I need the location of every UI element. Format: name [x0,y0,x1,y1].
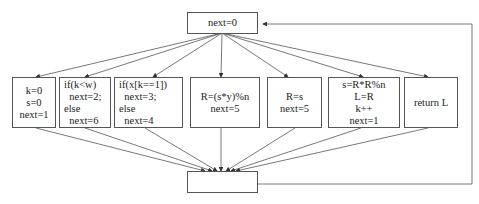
edge-top-case1 [36,33,222,77]
case-line: if(k<w) [64,79,110,91]
case-line: k=0 [26,85,42,97]
case-line: s=R*R%n [342,79,385,91]
case-line: next=1 [19,109,48,121]
edge-top-case7 [222,33,428,77]
case-box-4: R=(s*y)%n next=5 [190,77,260,128]
case-line: R=(s*y)%n [201,91,250,103]
case-line: return L [414,97,448,109]
case-box-2: if(k<w) next=2; else next=6 [59,77,111,128]
case-box-5: R=s next=5 [267,77,322,128]
edge-case6-bottom [231,128,361,171]
case-line: next=1 [349,115,378,127]
dispatcher-bottom-node [187,171,258,193]
dispatcher-top-node: next=0 [187,12,258,34]
edge-case5-bottom [226,128,295,171]
case-line: next=2; [64,91,110,103]
case-box-3: if(x[k==1]) next=3; else next=4 [114,77,183,128]
case-line: k++ [355,103,372,115]
case-line: next=6 [64,115,110,127]
edge-top-case4 [221,33,222,77]
case-line: if(x[k==1]) [119,79,182,91]
edge-top-case3 [153,33,222,77]
edge-case2-bottom [85,128,212,171]
edge-top-case5 [222,33,288,77]
case-line: next=5 [280,103,309,115]
case-line: else [64,103,110,115]
case-box-6: s=R*R%n L=R k++ next=1 [328,77,400,128]
case-line: else [119,103,182,115]
edge-top-case6 [222,33,363,77]
case-line: R=s [286,91,303,103]
edge-case7-bottom [236,128,428,171]
case-line: next=5 [210,103,239,115]
case-box-7: return L [404,77,458,128]
node-label: next=0 [208,17,237,29]
case-line: next=3; [119,91,182,103]
case-line: s=0 [26,97,41,109]
edge-case1-bottom [36,128,205,171]
case-line: L=R [354,91,373,103]
case-line: next=4 [119,115,182,127]
case-box-1: k=0 s=0 next=1 [12,77,56,128]
edge-top-case2 [85,33,222,77]
